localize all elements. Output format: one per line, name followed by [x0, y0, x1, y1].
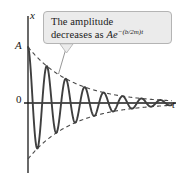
origin-tick-label: 0: [16, 94, 22, 105]
callout-line-2-prefix: decreases as: [51, 29, 107, 40]
damped-oscillation-curve: [28, 47, 172, 148]
lower-envelope-curve: [28, 105, 172, 159]
callout-line-2: decreases as Ae−(b/2m)t: [51, 28, 166, 41]
callout-formula-base: Ae: [107, 29, 118, 40]
y-axis-label: x: [30, 10, 35, 21]
amplitude-tick-label: A: [15, 40, 22, 51]
annotation-callout: The amplitude decreases as Ae−(b/2m)t: [43, 11, 172, 44]
x-axis-label: t: [172, 99, 175, 110]
callout-formula-exponent: −(b/2m)t: [118, 28, 143, 36]
callout-line-1: The amplitude: [51, 15, 166, 28]
damped-oscillation-figure: x t A 0 The amplitude decreases as Ae−(b…: [0, 0, 185, 177]
callout-tail: [60, 44, 73, 53]
